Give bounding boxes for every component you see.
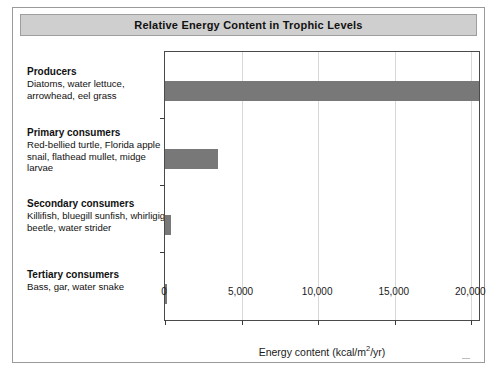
x-axis-title-suffix: /yr)	[370, 346, 385, 358]
x-tick-label-15000: 15,000	[378, 286, 409, 297]
plot-area	[164, 51, 480, 321]
page-title: Relative Energy Content in Trophic Level…	[134, 19, 362, 31]
category-species: Killifish, bluegill sunfish, whirligig b…	[27, 210, 167, 233]
x-tick-10000	[318, 320, 319, 325]
y-tick-2	[160, 185, 165, 186]
x-axis-title-prefix: Energy content (kcal/m	[259, 346, 366, 358]
x-tick-label-10000: 10,000	[302, 286, 333, 297]
x-tick-label-5000: 5,000	[228, 286, 253, 297]
bar-producers	[165, 81, 479, 101]
x-tick-20000	[471, 320, 472, 325]
x-tick-label-20000: 20,000	[455, 286, 486, 297]
category-species: Diatoms, water lettuce, arrowhead, eel g…	[27, 78, 167, 101]
category-label-primary-consumers: Primary consumers Red-bellied turtle, Fl…	[27, 127, 167, 174]
category-species: Bass, gar, water snake	[27, 281, 167, 293]
chart-title-bar: Relative Energy Content in Trophic Level…	[20, 14, 477, 36]
category-label-secondary-consumers: Secondary consumers Killifish, bluegill …	[27, 198, 167, 233]
y-tick-3	[160, 252, 165, 253]
category-label-producers: Producers Diatoms, water lettuce, arrowh…	[27, 66, 167, 101]
category-label-tertiary-consumers: Tertiary consumers Bass, gar, water snak…	[27, 269, 167, 293]
bar-secondary-consumers	[165, 215, 171, 235]
category-name: Producers	[27, 66, 167, 78]
category-name: Tertiary consumers	[27, 269, 167, 281]
bar-primary-consumers	[165, 149, 218, 169]
x-tick-label-0: 0	[161, 286, 167, 297]
figure-panel: Relative Energy Content in Trophic Level…	[12, 7, 485, 363]
category-name: Primary consumers	[27, 127, 167, 139]
y-tick-1	[160, 118, 165, 119]
category-name: Secondary consumers	[27, 198, 167, 210]
corner-mark	[462, 358, 470, 359]
x-axis-title: Energy content (kcal/m2/yr)	[164, 344, 480, 358]
x-tick-15000	[395, 320, 396, 325]
x-tick-5000	[242, 320, 243, 325]
category-species: Red-bellied turtle, Florida apple snail,…	[27, 139, 167, 174]
x-tick-0	[165, 320, 166, 325]
